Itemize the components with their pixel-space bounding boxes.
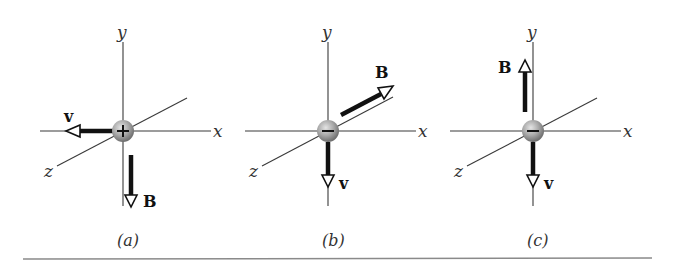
x-axis-label: x [623, 121, 633, 141]
y-axis-label: y [526, 22, 537, 42]
magnetic-field-arrow-icon [125, 155, 137, 207]
magnetic-field-label: B [143, 192, 157, 211]
magnetic-field-label: B [498, 58, 512, 77]
panel-caption-a: (a) [117, 231, 139, 250]
negative-particle-icon [522, 120, 544, 142]
x-axis-label: x [418, 121, 428, 141]
y-axis-label: y [321, 22, 332, 42]
magnetic-field-label: B [375, 63, 389, 82]
panel-caption-c: (c) [527, 231, 548, 250]
x-axis-label: x [213, 121, 223, 141]
bottom-divider [23, 258, 652, 259]
velocity-label: v [338, 174, 349, 193]
y-axis-label: y [116, 22, 127, 42]
panel-c: y x z B v (c) [450, 22, 633, 250]
panel-a: y x z v B (a) [40, 22, 223, 250]
figure-canvas: y x z v B (a) y x z [0, 0, 675, 277]
z-axis-label: z [248, 161, 259, 181]
positive-particle-icon [112, 120, 134, 142]
velocity-label: v [543, 174, 554, 193]
velocity-arrow-icon [66, 125, 113, 137]
z-axis-label: z [43, 161, 54, 181]
panel-caption-b: (b) [322, 231, 345, 250]
velocity-arrow-icon [527, 142, 539, 187]
magnetic-field-arrow-icon [519, 60, 531, 112]
negative-particle-icon [317, 120, 339, 142]
z-axis-label: z [453, 161, 464, 181]
velocity-arrow-icon [322, 142, 334, 187]
panel-b: y x z B v (b) [245, 22, 428, 250]
velocity-label: v [63, 107, 74, 126]
